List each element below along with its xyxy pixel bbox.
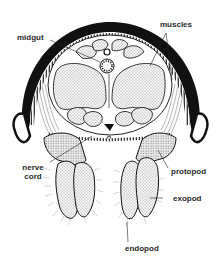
label-exopod: exopod [173, 194, 201, 203]
label-muscles: muscles [160, 20, 192, 29]
label-protopod: protopod [171, 167, 206, 176]
label-midgut: midgut [17, 33, 44, 42]
left-appendage [43, 133, 103, 225]
heart [104, 49, 110, 55]
right-appendage [113, 133, 176, 226]
label-endopod: endopod [125, 244, 159, 253]
label-nerve-cord-line2: cord [18, 172, 48, 181]
midgut-organ [100, 59, 114, 73]
left-exopod [74, 163, 95, 217]
right-exopod [136, 158, 159, 217]
label-nerve-cord: nerve cord [18, 163, 48, 181]
label-nerve-cord-line1: nerve [18, 163, 48, 172]
